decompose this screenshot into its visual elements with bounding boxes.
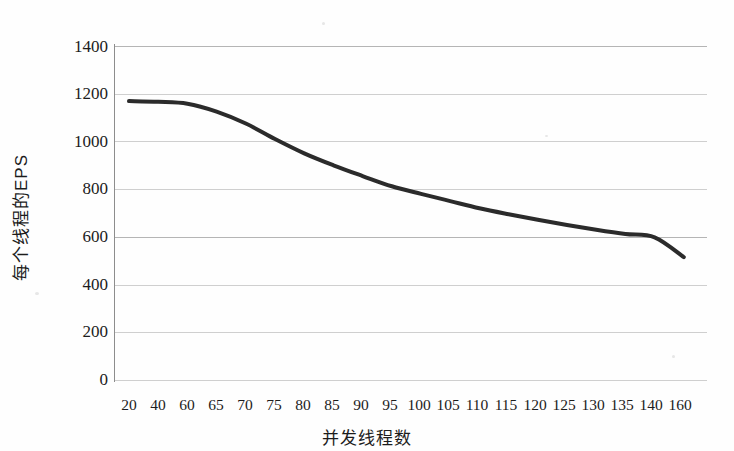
x-tick-label: 110 — [461, 396, 493, 413]
series-line-chart — [115, 46, 707, 380]
y-tick-label: 800 — [83, 180, 109, 197]
x-tick-label: 95 — [376, 396, 404, 413]
x-tick-label: 90 — [347, 396, 375, 413]
scan-speck — [545, 135, 548, 137]
y-tick-label: 1200 — [74, 85, 108, 102]
y-tick-label: 200 — [83, 323, 109, 340]
y-tick-label: 600 — [83, 228, 109, 245]
scan-speck — [672, 355, 675, 358]
x-tick-label: 130 — [577, 396, 609, 413]
x-tick-label: 20 — [115, 396, 143, 413]
x-tick-label: 115 — [490, 396, 522, 413]
x-tick-label: 80 — [289, 396, 317, 413]
x-tick-label: 75 — [260, 396, 288, 413]
y-tick-label: 0 — [100, 371, 109, 388]
x-tick-label: 160 — [664, 396, 696, 413]
x-tick-label: 140 — [635, 396, 667, 413]
x-tick-label: 120 — [519, 396, 551, 413]
plot-area — [115, 46, 707, 380]
x-tick-label: 135 — [606, 396, 638, 413]
y-axis-title: 每个线程的EPS — [7, 113, 32, 323]
x-tick-label: 40 — [144, 396, 172, 413]
x-tick-label: 125 — [548, 396, 580, 413]
x-axis-title: 并发线程数 — [0, 424, 734, 449]
x-tick-label: 85 — [318, 396, 346, 413]
chart-container: 1400 1200 1000 800 600 400 200 0 20 40 6… — [0, 0, 734, 451]
scan-speck — [35, 292, 39, 295]
x-tick-label: 60 — [173, 396, 201, 413]
x-tick-label: 105 — [432, 396, 464, 413]
y-tick-label: 400 — [83, 276, 109, 293]
series-path-eps — [129, 101, 684, 257]
x-tick-label: 65 — [202, 396, 230, 413]
x-tick-label: 70 — [231, 396, 259, 413]
gridline-0 — [115, 380, 707, 381]
y-tick-label: 1400 — [74, 38, 108, 55]
scan-speck — [322, 22, 325, 25]
y-tick-label: 1000 — [74, 133, 108, 150]
x-tick-label: 100 — [403, 396, 435, 413]
x-axis-tick-labels: 20 40 60 65 70 75 80 85 90 95 100 105 11… — [115, 396, 707, 418]
